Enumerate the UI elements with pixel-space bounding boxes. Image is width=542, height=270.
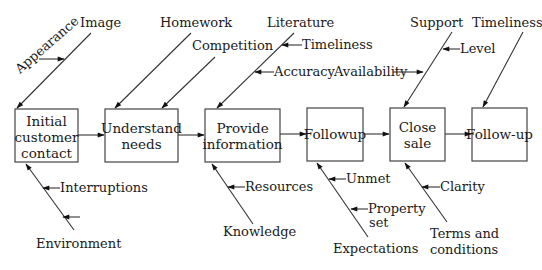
cause-label: Expectations: [333, 241, 418, 256]
cause-arrow: [26, 164, 74, 230]
sub-cause-label: set: [369, 215, 389, 230]
cause-label: Knowledge: [223, 224, 297, 239]
cause-timeliness: Timeliness: [472, 15, 542, 107]
cause-label: Homework: [160, 15, 232, 30]
sub-cause-label: Appearance: [11, 13, 81, 77]
fishbone-diagram: Initial customer contact Understand need…: [0, 0, 542, 270]
sub-cause-label: Accuracy: [273, 64, 336, 79]
cause-image: Image Appearance: [11, 13, 121, 108]
cause-arrow: [162, 57, 215, 108]
cause-label: Literature: [267, 15, 334, 30]
cause-arrow: [404, 32, 452, 107]
sub-cause-label: Resources: [245, 179, 313, 194]
box-label: information: [202, 136, 282, 152]
box-label: Followup: [304, 126, 366, 142]
process-step-close-sale: Close sale: [390, 108, 445, 161]
box-label: Initial: [26, 113, 66, 129]
cause-label: Environment: [36, 236, 122, 251]
cause-label: conditions: [430, 242, 498, 257]
cause-expectations: Unmet Property set Expectations: [317, 163, 426, 256]
cause-label: Support: [410, 15, 464, 30]
cause-homework: Homework: [115, 15, 232, 108]
process-step-initial-customer-contact: Initial customer contact: [15, 109, 80, 162]
cause-label: Terms and: [430, 226, 499, 241]
sub-cause-label: Clarity: [440, 179, 485, 194]
box-label: customer: [15, 129, 80, 145]
cause-label: Competition: [192, 38, 274, 53]
sub-cause-label: Timeliness: [302, 37, 373, 52]
sub-cause-label: Property: [368, 201, 426, 216]
cause-knowledge: Resources Knowledge: [212, 164, 313, 239]
cause-environment: Interruptions Environment: [26, 164, 148, 251]
cause-arrow: [212, 164, 253, 224]
cause-literature: Literature Timeliness Accuracy: [217, 15, 373, 108]
box-label: Provide: [216, 120, 268, 136]
cause-label: Image: [80, 15, 122, 30]
cause-arrow: [115, 33, 191, 108]
box-label: needs: [121, 136, 161, 152]
cause-competition: Competition: [162, 38, 274, 108]
box-label: Follow-up: [466, 126, 533, 142]
box-label: Understand: [101, 120, 182, 136]
cause-label: Timeliness: [472, 15, 542, 30]
sub-cause-label: Level: [460, 41, 496, 56]
box-label: sale: [404, 135, 431, 151]
sub-cause-label: Interruptions: [60, 180, 148, 195]
sub-cause-label: Unmet: [346, 171, 391, 186]
box-label: Close: [399, 119, 437, 135]
process-step-provide-information: Provide information: [202, 109, 282, 162]
box-label: contact: [21, 145, 72, 161]
process-step-followup: Followup: [304, 108, 366, 161]
process-step-follow-up: Follow-up: [466, 108, 533, 161]
process-step-understand-needs: Understand needs: [101, 109, 182, 162]
